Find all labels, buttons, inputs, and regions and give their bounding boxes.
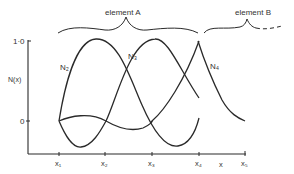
element-b-label: element B [235,8,271,17]
x-axis-label: x [219,160,223,169]
x-tick-label-4: x₄ [195,159,202,168]
brace-element-a [58,17,198,33]
y-tick-label-1: 1·0 [13,37,25,46]
curve-label-n4: N₄ [210,62,219,71]
curve-label-n2: N₂ [60,63,69,72]
y-axis-label: N(x) [8,76,21,84]
x-tick-label-5: x₅ [241,159,248,168]
brace-element-b-dashed [256,26,282,29]
curve-n4 [198,41,245,121]
x-tick-label-1: x₁ [55,159,62,168]
y-tick-label-0: 0 [20,117,25,126]
element-a-label: element A [105,8,141,17]
curve-label-n3: N₃ [128,52,137,61]
shape-function-diagram: element A element B 1·0 0 N(x) x₁ x₂ x₃ … [0,0,294,174]
x-tick-label-2: x₂ [101,159,108,168]
brace-element-b [204,19,256,33]
x-tick-label-3: x₃ [148,159,155,168]
